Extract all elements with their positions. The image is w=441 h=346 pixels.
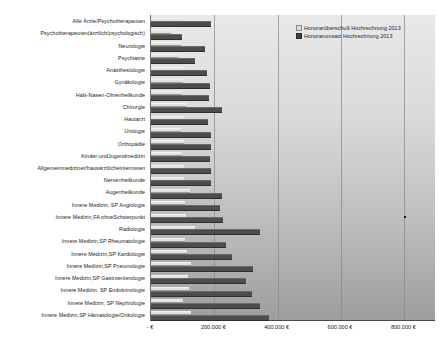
tick-label: 400.000 € bbox=[264, 324, 289, 330]
bar-row bbox=[151, 260, 435, 272]
category-axis-labels: Alle Ärzte/PsychotherapeutenPsychotherap… bbox=[0, 15, 148, 321]
chart-legend: Honorarüberschuß Hochrechnung 2013 Honor… bbox=[296, 25, 436, 41]
category-label: Innere Medizin,SP Rheumatologie bbox=[62, 238, 145, 244]
bar-umsatz bbox=[151, 315, 269, 321]
category-label: Innere Medizin, SP Nephrologie bbox=[67, 300, 145, 306]
category-label: Hautarzt bbox=[124, 116, 145, 122]
category-label: Innere Medizin,FA ohneSchwerpunkt bbox=[56, 214, 145, 220]
legend-swatch-icon bbox=[296, 33, 302, 39]
bar-row bbox=[151, 223, 435, 235]
tick-label: - € bbox=[147, 324, 154, 330]
category-label: Innere Medizin,SP Gastroenterologie bbox=[55, 275, 145, 281]
category-label: Urologie bbox=[125, 128, 145, 134]
legend-label: Honorarüberschuß Hochrechnung 2013 bbox=[304, 25, 401, 31]
category-label: Innere Medizin,SP Hämatologie/Onkologie bbox=[42, 312, 145, 318]
category-label: Psychiatrie bbox=[118, 55, 145, 61]
category-label: Psychotherapeuten(ärztlich/psychologisch… bbox=[40, 30, 145, 36]
category-label: Hals-Nasen-Ohrenheilkunde bbox=[76, 92, 145, 98]
bar-row bbox=[151, 174, 435, 186]
bar-row bbox=[151, 64, 435, 76]
bar-chart: Alle Ärzte/PsychotherapeutenPsychotherap… bbox=[0, 0, 441, 346]
bar-row bbox=[151, 76, 435, 88]
plot-area bbox=[150, 15, 435, 321]
category-label: Anästhesiologie bbox=[106, 67, 145, 73]
category-label: Allgemeinmediziner/hausärztlicheInternis… bbox=[37, 165, 145, 171]
bar-row bbox=[151, 52, 435, 64]
category-label: Orthopädie bbox=[118, 141, 145, 147]
bar-row bbox=[151, 39, 435, 51]
category-label: Chirurgie bbox=[123, 104, 145, 110]
bar-rows bbox=[151, 15, 435, 320]
tick-label: 800.000 € bbox=[391, 324, 416, 330]
bar-row bbox=[151, 211, 435, 223]
legend-label: Honorarumsatz Hochrechnung 2013 bbox=[304, 33, 392, 39]
category-label: Innere Medizin, SP Angiologie bbox=[72, 202, 145, 208]
bar-row bbox=[151, 199, 435, 211]
bar-row bbox=[151, 186, 435, 198]
category-label: Innere Medizin, SP Endokrinologie bbox=[61, 287, 145, 293]
bar-row bbox=[151, 162, 435, 174]
category-label: Neurologie bbox=[118, 43, 145, 49]
category-label: Kinder-undJugendmedizin bbox=[81, 153, 145, 159]
tick-label: 200.000 € bbox=[201, 324, 226, 330]
tick-label: 600.000 € bbox=[328, 324, 353, 330]
category-label: Nervenheilkunde bbox=[104, 177, 145, 183]
category-label: Radiologie bbox=[119, 226, 145, 232]
bar-row bbox=[151, 101, 435, 113]
data-point-marker bbox=[404, 216, 406, 218]
bar-row bbox=[151, 113, 435, 125]
bar-row bbox=[151, 297, 435, 309]
legend-item-ueberschuss: Honorarüberschuß Hochrechnung 2013 bbox=[296, 25, 436, 31]
bar-row bbox=[151, 88, 435, 100]
bar-row bbox=[151, 309, 435, 321]
bar-row bbox=[151, 235, 435, 247]
bar-row bbox=[151, 248, 435, 260]
category-label: Gynäkologie bbox=[114, 79, 145, 85]
legend-item-umsatz: Honorarumsatz Hochrechnung 2013 bbox=[296, 33, 436, 39]
bar-row bbox=[151, 284, 435, 296]
bar-row bbox=[151, 150, 435, 162]
bar-row bbox=[151, 272, 435, 284]
category-label: Augenheilkunde bbox=[106, 189, 145, 195]
category-label: Innere Medizin,SP Kardiologie bbox=[71, 251, 145, 257]
legend-swatch-icon bbox=[296, 25, 302, 31]
category-label: Alle Ärzte/Psychotherapeuten bbox=[73, 18, 145, 24]
category-label: Innere Medizin,SP Pneumologie bbox=[67, 263, 145, 269]
bar-row bbox=[151, 137, 435, 149]
bar-row bbox=[151, 125, 435, 137]
